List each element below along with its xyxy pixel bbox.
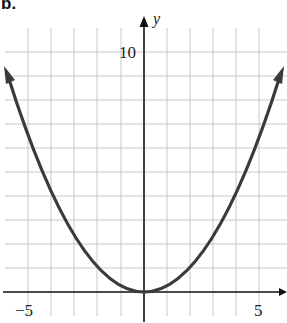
y-axis-arrow-icon <box>140 16 149 27</box>
y-tick-10: 10 <box>119 43 136 62</box>
curve-arrow-left-icon <box>4 66 15 84</box>
x-tick-neg5: −5 <box>15 301 33 320</box>
y-axis-label: y <box>151 10 161 28</box>
curve-arrow-right-icon <box>273 66 284 84</box>
x-axis-arrow-icon <box>279 288 287 296</box>
parabola-chart: −5 5 10 y <box>0 0 287 323</box>
x-tick-5: 5 <box>254 301 263 320</box>
